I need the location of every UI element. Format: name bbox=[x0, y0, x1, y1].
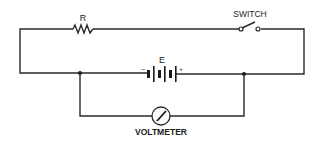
switch: SWITCH bbox=[233, 9, 267, 31]
middle-wire bbox=[80, 73, 244, 74]
battery-positive-sign: + bbox=[179, 66, 183, 72]
resistor: R bbox=[73, 13, 93, 33]
battery-label: E bbox=[159, 55, 165, 65]
circuit-diagram: R SWITCH E − + VOLTMETER bbox=[0, 0, 320, 142]
switch-label: SWITCH bbox=[233, 9, 267, 19]
voltmeter: VOLTMETER bbox=[135, 107, 187, 137]
voltmeter-label: VOLTMETER bbox=[135, 127, 187, 137]
resistor-label: R bbox=[80, 13, 87, 23]
battery-negative-sign: − bbox=[141, 66, 145, 73]
top-wire bbox=[20, 29, 304, 74]
battery: E − + bbox=[141, 55, 183, 82]
